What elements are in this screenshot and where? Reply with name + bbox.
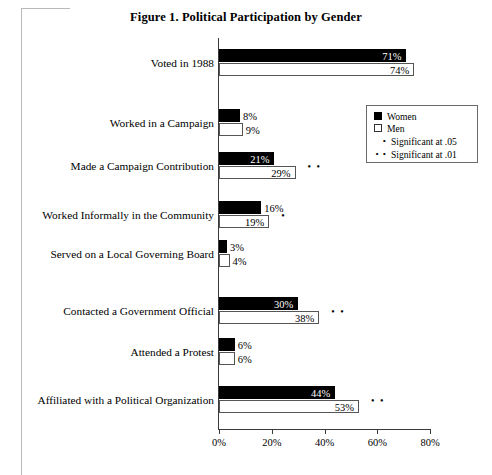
x-axis-tick-label: 0% xyxy=(212,437,226,448)
filled-square-icon xyxy=(374,112,382,120)
category-label: Made a Campaign Contribution xyxy=(0,160,214,172)
legend-entry-men: Men xyxy=(374,122,472,134)
bar-value-label: 30% xyxy=(274,298,293,311)
bar-value-label: 29% xyxy=(271,167,290,180)
y-axis-line xyxy=(218,38,219,430)
bar-value-label: 4% xyxy=(233,255,247,268)
legend-label-sig01: Significant at .01 xyxy=(391,149,457,160)
significance-marker: • • xyxy=(308,161,322,172)
chart-plot-area: Voted in 198871%74%Worked in a Campaign8… xyxy=(0,0,492,475)
bar-value-label: 9% xyxy=(246,124,260,137)
bar-value-label: 21% xyxy=(250,153,269,166)
bar-value-label: 8% xyxy=(243,110,257,123)
bar-men: 53% xyxy=(219,400,359,413)
x-axis-tick-label: 20% xyxy=(262,437,281,448)
bar-women: 30% xyxy=(219,297,298,310)
bar-value-label: 44% xyxy=(311,387,330,400)
bar-value-label: 53% xyxy=(335,401,354,414)
bar-value-label: 38% xyxy=(295,312,314,325)
significance-marker: • • xyxy=(331,306,345,317)
x-axis-tick xyxy=(325,429,326,434)
bar-men: 74% xyxy=(219,63,414,76)
bar-women: 3% xyxy=(219,240,227,253)
bar-value-label: 19% xyxy=(245,216,264,229)
bar-men: 38% xyxy=(219,311,319,324)
bar-value-label: 6% xyxy=(238,339,252,352)
bar-men: 19% xyxy=(219,215,269,228)
bar-women: 16% xyxy=(219,201,261,214)
significance-marker: • • xyxy=(371,395,385,406)
x-axis-tick-label: 60% xyxy=(368,437,387,448)
legend-note-sig05: • Significant at .05 xyxy=(374,135,472,147)
x-axis-tick-label: 80% xyxy=(421,437,440,448)
category-label: Contacted a Government Official xyxy=(0,305,214,317)
bar-men: 9% xyxy=(219,123,243,136)
bar-value-label: 3% xyxy=(230,241,244,254)
x-axis-tick-label: 40% xyxy=(315,437,334,448)
bar-value-label: 6% xyxy=(238,353,252,366)
category-label: Served on a Local Governing Board xyxy=(0,248,214,260)
x-axis-tick xyxy=(272,429,273,434)
bar-value-label: 71% xyxy=(382,50,401,63)
legend-label-women: Women xyxy=(387,111,417,122)
bar-men: 4% xyxy=(219,254,230,267)
legend-note-sig01: • • Significant at .01 xyxy=(374,148,472,160)
chart-legend: Women Men • Significant at .05 • • Signi… xyxy=(366,105,478,163)
single-dot-icon: • xyxy=(374,136,387,147)
bar-women: 21% xyxy=(219,152,274,165)
x-axis-tick xyxy=(219,429,220,434)
significance-marker: • xyxy=(281,210,286,221)
bar-women: 71% xyxy=(219,49,406,62)
x-axis-tick xyxy=(430,429,431,434)
legend-label-sig05: Significant at .05 xyxy=(391,136,457,147)
bar-women: 8% xyxy=(219,109,240,122)
double-dot-icon: • • xyxy=(374,149,387,160)
category-label: Attended a Protest xyxy=(0,346,214,358)
open-square-icon xyxy=(374,124,382,132)
bar-women: 6% xyxy=(219,338,235,351)
bar-men: 29% xyxy=(219,166,296,179)
legend-entry-women: Women xyxy=(374,110,472,122)
bar-women: 44% xyxy=(219,386,335,399)
bar-men: 6% xyxy=(219,352,235,365)
category-label: Voted in 1988 xyxy=(0,57,214,69)
category-label: Affiliated with a Political Organization xyxy=(0,394,214,406)
x-axis-tick xyxy=(377,429,378,434)
legend-label-men: Men xyxy=(387,123,405,134)
category-label: Worked Informally in the Community xyxy=(0,209,214,221)
category-label: Worked in a Campaign xyxy=(0,117,214,129)
bar-value-label: 74% xyxy=(390,64,409,77)
